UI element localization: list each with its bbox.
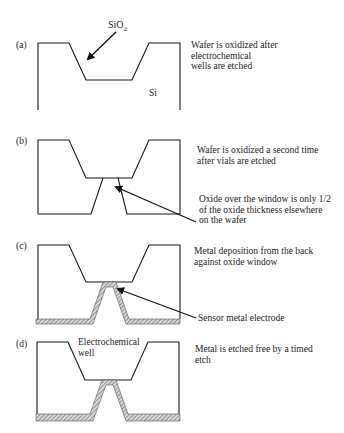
panel-a-description: Wafer is oxidized after electrochemical … <box>191 40 278 72</box>
panel-label-b: (b) <box>16 136 27 147</box>
oxide-window-arrow <box>116 187 196 222</box>
metal-layer <box>36 282 180 324</box>
panel-c-wafer <box>36 245 196 324</box>
sensor-electrode-callout: Sensor metal electrode <box>198 313 285 324</box>
panel-label-d: (d) <box>16 339 27 350</box>
panel-label-c: (c) <box>16 241 27 252</box>
sio2-label: SiO2 <box>108 20 127 35</box>
sensor-electrode-arrow <box>118 289 196 318</box>
panel-c-description: Metal deposition from the back against o… <box>194 246 313 267</box>
sio2-arrow <box>88 32 116 59</box>
si-label: Si <box>149 88 157 99</box>
metal-layer <box>36 380 180 421</box>
panel-label-a: (a) <box>16 40 27 51</box>
panel-a-wafer <box>38 32 180 110</box>
panel-b-wafer <box>38 140 196 222</box>
electrochemical-well-label: Electrochemical well <box>78 337 140 358</box>
oxide-window-callout: Oxide over the window is only 1/2 of the… <box>199 194 331 226</box>
panel-d-description: Metal is etched free by a timed etch <box>195 344 313 365</box>
panel-b-description: Wafer is oxidized a second time after vi… <box>197 145 318 166</box>
